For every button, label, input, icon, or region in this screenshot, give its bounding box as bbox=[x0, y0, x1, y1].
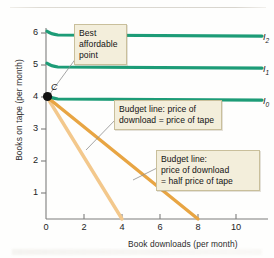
x-tick-label-2: 2 bbox=[77, 222, 91, 232]
curve-label-i2: I2 bbox=[263, 32, 269, 44]
callout-best-line2: affordable bbox=[79, 39, 122, 50]
x-tick-label-6: 6 bbox=[153, 222, 167, 232]
callout-budget-line-equal-price: Budget line: price of download = price o… bbox=[114, 100, 222, 130]
x-tick-label-10: 10 bbox=[229, 222, 243, 232]
callout-half-line3: = half price of tape bbox=[161, 176, 255, 187]
callout-best-line1: Best bbox=[79, 28, 122, 39]
callout-best-affordable-point: Best affordable point bbox=[74, 24, 127, 65]
y-axis-ticks bbox=[41, 33, 46, 193]
callout-equal-line2: download = price of tape bbox=[119, 115, 217, 126]
callout-equal-line1: Budget line: price of bbox=[119, 104, 217, 115]
budget-line-half-price bbox=[47, 97, 122, 219]
callout-half-line1: Budget line: bbox=[161, 154, 255, 165]
y-tick-label-4: 4 bbox=[24, 91, 38, 101]
x-tick-label-4: 4 bbox=[115, 222, 129, 232]
x-tick-label-8: 8 bbox=[191, 222, 205, 232]
best-affordable-point-marker bbox=[43, 92, 52, 101]
curve-label-i0: I0 bbox=[263, 96, 269, 108]
y-tick-label-2: 2 bbox=[24, 155, 38, 165]
curve-label-i0-sub: 0 bbox=[266, 101, 270, 108]
curve-label-i1: I1 bbox=[263, 64, 269, 76]
y-axis-title: Books on tape (per month) bbox=[14, 35, 24, 185]
x-axis-ticks bbox=[84, 214, 236, 219]
figure-panel: 6 5 4 3 2 1 0 2 4 6 8 10 Books on tape (… bbox=[0, 0, 274, 258]
x-axis-title: Book downloads (per month) bbox=[128, 239, 238, 249]
x-tick-label-0: 0 bbox=[39, 222, 53, 232]
curve-label-i1-sub: 1 bbox=[266, 69, 270, 76]
y-tick-label-6: 6 bbox=[24, 27, 38, 37]
point-c-label: C bbox=[51, 82, 58, 92]
y-tick-label-5: 5 bbox=[24, 59, 38, 69]
y-tick-label-1: 1 bbox=[24, 187, 38, 197]
callout-budget-line-half-price: Budget line: price of download = half pr… bbox=[156, 150, 260, 191]
callout-half-line2: price of download bbox=[161, 165, 255, 176]
callout-best-line3: point bbox=[79, 50, 122, 61]
curve-label-i2-sub: 2 bbox=[266, 37, 270, 44]
y-tick-label-3: 3 bbox=[24, 123, 38, 133]
